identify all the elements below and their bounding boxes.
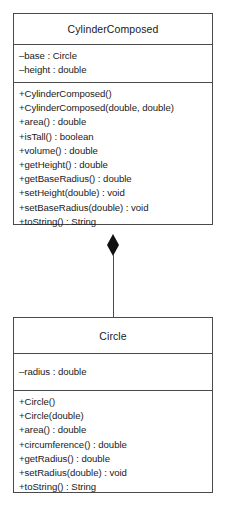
- attributes-compartment-circle: –radius : double: [14, 354, 212, 391]
- operation-item: +getBaseRadius() : double: [19, 172, 212, 186]
- operation-item: +setRadius(double) : void: [19, 466, 212, 480]
- attribute-item: –height : double: [19, 63, 212, 77]
- diamond-upper-half: [107, 234, 119, 245]
- page-caption: [0, 514, 229, 520]
- operation-item: +toString() : String: [19, 480, 212, 494]
- operation-item: +getHeight() : double: [19, 158, 212, 172]
- operation-item: +area() : double: [19, 423, 212, 437]
- operation-item: +circumference() : double: [19, 438, 212, 452]
- composition-connector-line: [113, 255, 114, 318]
- class-box-circle[interactable]: Circle –radius : double +Circle() +Circl…: [13, 317, 213, 493]
- operation-item: +area() : double: [19, 115, 212, 129]
- attribute-item: –radius : double: [19, 365, 86, 379]
- attribute-item: –base : Circle: [19, 49, 212, 63]
- operation-item: +Circle(double): [19, 409, 212, 423]
- class-name-circle: Circle: [99, 330, 126, 342]
- class-name-compartment-circle: Circle: [14, 318, 212, 354]
- attributes-compartment-cylinder-composed: –base : Circle –height : double: [14, 45, 212, 83]
- operations-compartment-cylinder-composed: +CylinderComposed() +CylinderComposed(do…: [14, 83, 212, 233]
- operation-item: +Circle(): [19, 395, 212, 409]
- class-name-cylinder-composed: CylinderComposed: [68, 23, 159, 35]
- operation-item: +toString() : String: [19, 215, 212, 229]
- operation-item: +setBaseRadius(double) : void: [19, 201, 212, 215]
- operation-item: +CylinderComposed(): [19, 87, 212, 101]
- class-box-cylinder-composed[interactable]: CylinderComposed –base : Circle –height …: [13, 13, 213, 225]
- operation-item: +getRadius() : double: [19, 452, 212, 466]
- operation-item: +isTall() : boolean: [19, 130, 212, 144]
- operation-item: +volume() : double: [19, 144, 212, 158]
- operation-item: +CylinderComposed(double, double): [19, 101, 212, 115]
- class-name-compartment-cylinder-composed: CylinderComposed: [14, 14, 212, 45]
- uml-class-diagram-canvas: CylinderComposed –base : Circle –height …: [0, 0, 229, 522]
- operations-compartment-circle: +Circle() +Circle(double) +area() : doub…: [14, 391, 212, 498]
- operation-item: +setHeight(double) : void: [19, 186, 212, 200]
